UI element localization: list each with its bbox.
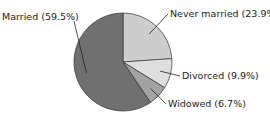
label-married: Married (59.5%): [2, 11, 79, 22]
label-widowed: Widowed (6.7%): [168, 98, 246, 109]
pie-chart: Married (59.5%) Never married (23.9%) Di…: [0, 0, 270, 121]
label-never-married: Never married (23.9%): [170, 8, 270, 19]
slice-never-married: [123, 13, 172, 62]
pie-slices: [74, 13, 172, 111]
label-divorced: Divorced (9.9%): [182, 70, 259, 81]
